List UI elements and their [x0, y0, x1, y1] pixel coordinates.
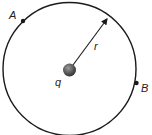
point-b-marker	[134, 81, 138, 85]
radius-arrow	[73, 19, 107, 65]
label-a: A	[8, 9, 16, 21]
label-r: r	[94, 40, 99, 52]
label-b: B	[141, 82, 148, 94]
label-q: q	[55, 76, 62, 88]
point-charge	[63, 64, 76, 77]
point-a-marker	[21, 19, 25, 23]
diagram-canvas: A B r q	[0, 0, 152, 135]
